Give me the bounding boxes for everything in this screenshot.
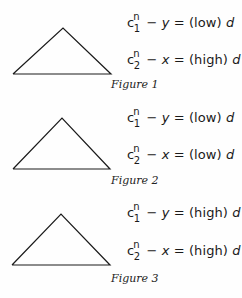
equation-1: cn1 − y = (low) d	[127, 110, 234, 125]
triangle-diagram	[0, 195, 120, 275]
figure-caption: Figure 1	[111, 78, 159, 91]
triangle-diagram	[0, 95, 120, 175]
equation-2: cn2 − x = (high) d	[127, 52, 241, 67]
figure-caption: Figure 2	[111, 174, 159, 187]
equation-1: cn1 − y = (low) d	[127, 15, 234, 30]
figure-3: cn1 − y = (high) d cn2 − x = (high) d Fi…	[0, 195, 242, 293]
figure-caption: Figure 3	[111, 272, 159, 285]
figure-2: cn1 − y = (low) d cn2 − x = (low) d Figu…	[0, 95, 242, 193]
equation-2: cn2 − x = (low) d	[127, 147, 234, 162]
equation-1: cn1 − y = (high) d	[127, 205, 241, 220]
triangle-diagram	[0, 0, 120, 80]
equation-2: cn2 − x = (high) d	[127, 243, 241, 258]
figure-1: cn1 − y = (low) d cn2 − x = (high) d Fig…	[0, 0, 242, 98]
